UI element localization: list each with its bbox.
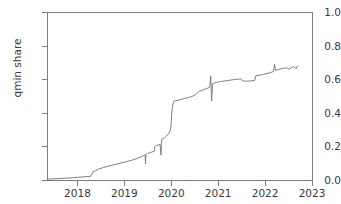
- y-tick-label: 1.0: [307, 7, 341, 17]
- axis-spine-right: [312, 12, 313, 181]
- x-tick-mark: [218, 181, 219, 186]
- y-tick-mark: [42, 146, 47, 147]
- axis-spine-left: [47, 12, 48, 181]
- y-tick-label: 0.2: [307, 141, 341, 151]
- x-tick-mark: [171, 181, 172, 186]
- y-axis-label: qmin share: [11, 23, 23, 113]
- figure-canvas: 0.00.20.40.60.81.0 201820192020202120222…: [0, 0, 341, 204]
- plot-area: [47, 12, 312, 180]
- axis-spine-top: [47, 12, 313, 13]
- y-tick-mark: [42, 46, 47, 47]
- y-tick-label: 0.6: [307, 74, 341, 84]
- y-tick-mark: [42, 79, 47, 80]
- x-tick-mark: [312, 181, 313, 186]
- x-tick-label: 2020: [151, 188, 191, 199]
- x-tick-label: 2021: [198, 188, 238, 199]
- x-tick-mark: [265, 181, 266, 186]
- y-tick-mark: [42, 12, 47, 13]
- x-tick-label: 2023: [292, 188, 332, 199]
- x-tick-label: 2018: [57, 188, 97, 199]
- x-tick-mark: [124, 181, 125, 186]
- y-tick-mark: [42, 180, 47, 181]
- y-tick-label: 0.4: [307, 108, 341, 118]
- x-tick-label: 2019: [104, 188, 144, 199]
- x-tick-label: 2022: [245, 188, 285, 199]
- y-tick-label: 0.8: [307, 41, 341, 51]
- y-tick-mark: [42, 113, 47, 114]
- x-tick-mark: [77, 181, 78, 186]
- axis-spine-bottom: [47, 180, 313, 181]
